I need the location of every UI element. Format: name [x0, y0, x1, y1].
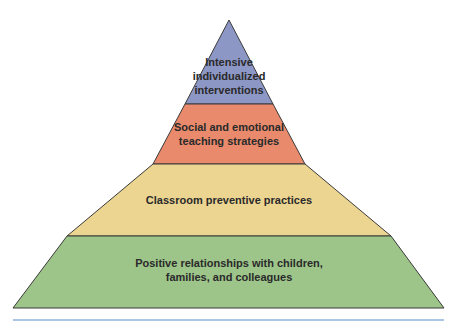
- tier-second-label: Social and emotional teaching strategies: [129, 120, 329, 148]
- tier-top-label-line: Intensive: [179, 55, 279, 69]
- tier-top-label: Intensive individualized interventions: [179, 55, 279, 97]
- tier-second-label-line: teaching strategies: [129, 134, 329, 148]
- tier-third-label-line: Classroom preventive practices: [129, 193, 329, 207]
- tier-base-label-line: Positive relationships with children,: [109, 256, 349, 270]
- tier-base-label: Positive relationships with children, fa…: [109, 256, 349, 284]
- tier-third-label: Classroom preventive practices: [129, 193, 329, 207]
- tier-top-label-line: individualized: [179, 69, 279, 83]
- tier-base-label-line: families, and colleagues: [109, 270, 349, 284]
- tier-top-label-line: interventions: [179, 83, 279, 97]
- bottom-divider: [13, 319, 444, 321]
- tier-second-label-line: Social and emotional: [129, 120, 329, 134]
